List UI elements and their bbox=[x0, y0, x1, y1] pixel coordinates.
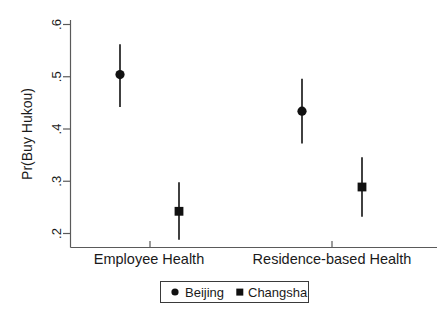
coefficient-plot-svg: .6 .5 .4 .3 .2 Pr(Buy Hukou) Employee He… bbox=[0, 0, 446, 326]
x-tick-label-residence-based-health: Residence-based Health bbox=[253, 251, 412, 267]
circle-marker-icon bbox=[297, 107, 306, 116]
y-tick-label-2: .4 bbox=[49, 124, 64, 135]
legend-label-beijing: Beijing bbox=[185, 285, 224, 300]
legend-square-marker-icon bbox=[236, 289, 243, 296]
y-tick-label-1: .5 bbox=[49, 71, 64, 82]
square-marker-icon bbox=[358, 183, 367, 192]
chart-figure: .6 .5 .4 .3 .2 Pr(Buy Hukou) Employee He… bbox=[0, 0, 446, 326]
y-tick-label-4: .2 bbox=[49, 228, 64, 239]
square-marker-icon bbox=[175, 207, 184, 216]
legend-circle-marker-icon bbox=[171, 288, 178, 295]
chart-background bbox=[0, 0, 446, 326]
y-tick-label-3: .3 bbox=[49, 176, 64, 187]
circle-marker-icon bbox=[115, 70, 124, 79]
legend-label-changsha: Changsha bbox=[248, 285, 308, 300]
y-axis-title: Pr(Buy Hukou) bbox=[19, 88, 35, 180]
x-tick-label-employee-health: Employee Health bbox=[94, 251, 204, 267]
y-tick-label-0: .6 bbox=[49, 19, 64, 30]
chart-legend: Beijing Changsha bbox=[161, 282, 309, 303]
